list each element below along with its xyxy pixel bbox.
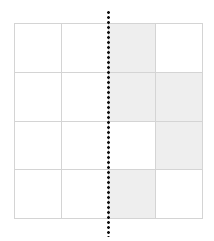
grid-cell [15,24,62,73]
grid-cell [62,24,109,73]
grid-cell [15,170,62,219]
grid-cell [62,170,109,219]
grid-cell [15,73,62,122]
grid-cell [156,170,203,219]
grid-cell-shaded [156,122,203,171]
grid-cell [156,24,203,73]
grid-cell-shaded [156,73,203,122]
grid-cell-shaded [109,24,156,73]
grid-cell [109,122,156,171]
dotted-fold-line [107,10,110,237]
grid-cell-shaded [109,73,156,122]
grid-cell [62,122,109,171]
grid-cell [15,122,62,171]
grid-cell-shaded [109,170,156,219]
grid-cell [62,73,109,122]
